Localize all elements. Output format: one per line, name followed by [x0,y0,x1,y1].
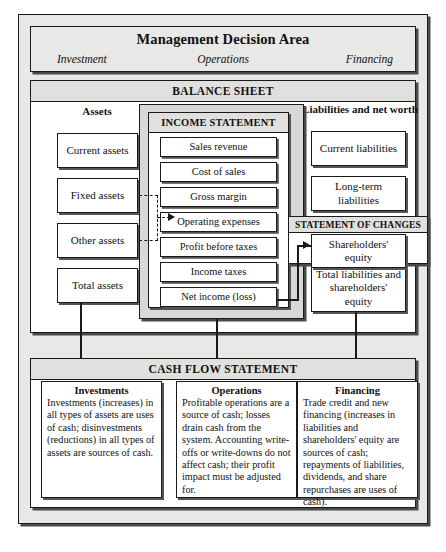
balance-item-label: Current liabilities [317,142,400,156]
arrow-into-shareholders-equity [303,241,310,249]
connector-fixed-assets-dashed [139,195,158,196]
balance-item-current-liabilities: Current liabilities [311,131,406,166]
management-label-financing: Financing [346,53,393,65]
balance-item-label: Long-term liabilities [312,180,405,207]
balance-item-current-assets: Current assets [57,133,138,168]
income-item-profit-before-taxes: Profit before taxes [160,237,277,257]
income-statement-panel: INCOME STATEMENT Sales revenue Cost of s… [148,112,289,308]
income-statement-frame: INCOME STATEMENT Sales revenue Cost of s… [139,104,304,319]
cash-flow-column-operations: Operations Profitable operations are a s… [176,381,297,498]
income-item-cost-of-sales: Cost of sales [160,162,277,182]
connector-assets-vertical-dashed [157,195,158,241]
assets-column-heading: Assets [42,105,152,118]
balance-item-label: Current assets [63,144,131,158]
balance-item-label: Total assets [69,279,126,293]
balance-item-longterm-liabilities: Long-term liabilities [311,176,406,211]
balance-item-fixed-assets: Fixed assets [57,178,138,213]
cash-flow-column-title: Investments [47,385,156,396]
balance-item-total-assets: Total assets [57,268,138,303]
connector-other-assets-dashed [139,240,158,241]
cash-flow-column-body: Investments (increases) in all types of … [47,397,156,459]
balance-item-label: Total liabilities and shareholders' equi… [312,268,405,309]
balance-item-label: Other assets [68,234,127,248]
balance-item-other-assets: Other assets [57,223,138,258]
cash-flow-column-title: Operations [182,385,291,396]
cash-flow-statement-header: CASH FLOW STATEMENT [31,359,415,380]
income-item-sales-revenue: Sales revenue [160,137,277,157]
income-item-income-taxes: Income taxes [160,262,277,282]
cash-flow-column-investments: Investments Investments (increases) in a… [41,381,162,498]
balance-item-total-liabilities: Total liabilities and shareholders' equi… [311,264,406,312]
balance-item-shareholders-equity: Shareholders' equity [311,234,406,268]
income-item-gross-margin: Gross margin [160,187,277,207]
management-decision-area: Management Decision Area Investment Oper… [30,26,416,72]
income-item-operating-expenses: Operating expenses [160,212,277,232]
management-decision-title: Management Decision Area [31,31,415,48]
balance-sheet-header: BALANCE SHEET [31,81,415,102]
balance-item-label: Shareholders' equity [312,238,405,265]
cash-flow-column-body: Trade credit and new financing (increase… [303,397,412,509]
income-statement-header: INCOME STATEMENT [149,113,288,133]
cash-flow-column-title: Financing [303,385,412,396]
connector-net-income-horizontal [277,299,299,301]
liabilities-column-heading: Liabilities and net worth [300,103,420,116]
cash-flow-column-body: Profitable operations are a source of ca… [182,397,291,496]
arrow-into-operating-expenses [168,213,175,221]
statement-of-changes-header: STATEMENT OF CHANGES [289,217,427,233]
cash-flow-column-financing: Financing Trade credit and new financing… [297,381,418,498]
income-item-net-income: Net income (loss) [160,287,277,307]
connector-net-income-vertical [297,245,299,301]
balance-item-label: Fixed assets [68,189,127,203]
